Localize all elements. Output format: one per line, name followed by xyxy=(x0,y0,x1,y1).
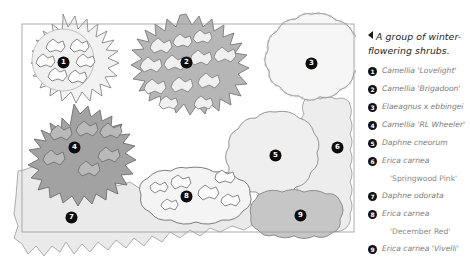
legend-label-8: Erica carnea xyxy=(382,209,464,219)
map-badge-3[interactable]: 3 xyxy=(306,58,317,69)
sidebar: A group of winter-flowering shrubs. 1 Ca… xyxy=(366,0,464,277)
legend-item-5[interactable]: 5 Daphne cneorum xyxy=(368,136,464,154)
legend-item-6-cont: 'Springwood Pink' xyxy=(368,172,464,189)
legend-badge-5: 5 xyxy=(368,139,377,148)
legend-badge-9: 9 xyxy=(368,245,377,254)
legend-label-7: Daphne odorata xyxy=(382,191,464,201)
map-badge-9[interactable]: 9 xyxy=(295,210,306,221)
legend-item-6[interactable]: 6 Erica carnea xyxy=(368,154,464,172)
map-badge-6[interactable]: 6 xyxy=(332,142,343,153)
shrub-shape-8 xyxy=(140,167,252,224)
legend-item-9[interactable]: 9 Erica carnea 'Vivelli' xyxy=(368,242,464,260)
legend-item-3[interactable]: 3 Elaeagnus x ebbingei xyxy=(368,100,464,118)
left-triangle-icon xyxy=(368,31,373,39)
legend-item-2[interactable]: 2 Camellia 'Brigadoon' xyxy=(368,82,464,100)
legend-label-1: Camellia 'Lovelight' xyxy=(382,66,464,76)
legend-label-6-cultivar: 'Springwood Pink' xyxy=(390,174,470,184)
legend-badge-4: 4 xyxy=(368,121,377,130)
figure-caption: A group of winter-flowering shrubs. xyxy=(368,30,464,57)
caption-text: A group of winter-flowering shrubs. xyxy=(368,31,461,56)
map-badge-1[interactable]: 1 xyxy=(58,57,69,68)
legend-item-7[interactable]: 7 Daphne odorata xyxy=(368,189,464,207)
shrub-shape-1 xyxy=(31,14,119,103)
legend-badge-7: 7 xyxy=(368,192,377,201)
legend-item-4[interactable]: 4 Camellia 'RL Wheeler' xyxy=(368,118,464,136)
legend-label-2: Camellia 'Brigadoon' xyxy=(382,84,464,94)
legend-label-3: Elaeagnus x ebbingei xyxy=(382,102,464,112)
legend-item-8-cont: 'December Red' xyxy=(368,225,464,242)
legend-item-1[interactable]: 1 Camellia 'Lovelight' xyxy=(368,64,464,82)
map-badge-2[interactable]: 2 xyxy=(181,57,192,68)
legend-badge-6: 6 xyxy=(368,157,377,166)
map-badge-8[interactable]: 8 xyxy=(181,191,192,202)
shrub-shape-3 xyxy=(265,13,356,100)
legend-badge-2: 2 xyxy=(368,85,377,94)
legend-label-5: Daphne cneorum xyxy=(382,138,464,148)
map-badge-5[interactable]: 5 xyxy=(270,150,281,161)
legend-item-8[interactable]: 8 Erica carnea xyxy=(368,207,464,225)
legend-list: 1 Camellia 'Lovelight' 2 Camellia 'Briga… xyxy=(368,64,464,260)
legend-label-8-cultivar: 'December Red' xyxy=(390,227,470,237)
map-badge-4[interactable]: 4 xyxy=(69,142,80,153)
planting-plan: 1 2 3 4 5 6 7 8 9 xyxy=(0,0,356,277)
legend-label-4: Camellia 'RL Wheeler' xyxy=(382,120,464,130)
legend-badge-3: 3 xyxy=(368,103,377,112)
legend-badge-8: 8 xyxy=(368,210,377,219)
legend-badge-1: 1 xyxy=(368,67,377,76)
map-badge-7[interactable]: 7 xyxy=(66,212,77,223)
legend-label-6: Erica carnea xyxy=(382,156,464,166)
legend-label-9: Erica carnea 'Vivelli' xyxy=(382,244,464,254)
